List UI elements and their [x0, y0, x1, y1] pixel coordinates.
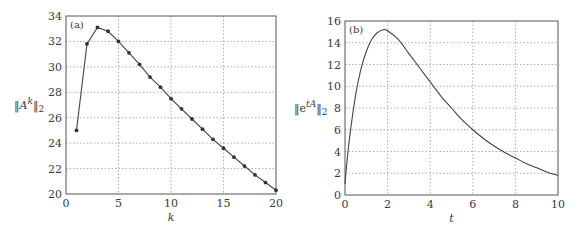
y-tick-label: 8 — [334, 102, 341, 115]
data-point-marker — [148, 75, 152, 79]
chart-panel-a: 051015202022242628303234k‖Ak‖2(a) — [14, 10, 283, 224]
data-point-marker — [274, 188, 278, 192]
data-point-marker — [264, 181, 268, 185]
y-axis-label: ‖etA‖2 — [294, 99, 327, 117]
data-point-marker — [138, 62, 142, 66]
y-tick-label: 6 — [334, 124, 341, 137]
x-tick-label: 10 — [551, 198, 565, 211]
x-tick-label: 4 — [427, 198, 434, 211]
data-point-marker — [85, 42, 89, 46]
x-tick-label: 8 — [512, 198, 519, 211]
y-tick-label: 30 — [48, 61, 62, 74]
y-tick-label: 24 — [48, 137, 62, 150]
y-tick-label: 32 — [48, 35, 62, 48]
data-point-marker — [180, 107, 184, 111]
data-point-marker — [190, 117, 194, 121]
y-tick-label: 34 — [48, 10, 62, 23]
data-point-marker — [169, 97, 173, 101]
x-tick-label: 6 — [469, 198, 476, 211]
data-point-marker — [201, 127, 205, 131]
x-tick-label: 2 — [384, 198, 391, 211]
y-tick-label: 14 — [327, 37, 341, 50]
data-point-marker — [106, 29, 110, 33]
x-tick-label: 0 — [342, 198, 349, 211]
chart-panel-b: 02468100246810121416t‖etA‖2(b) — [294, 15, 565, 225]
figure: 051015202022242628303234k‖Ak‖2(a) 024681… — [0, 0, 579, 228]
y-tick-label: 10 — [327, 80, 341, 93]
data-point-marker — [243, 164, 247, 168]
x-tick-label: 0 — [63, 197, 70, 210]
y-tick-label: 0 — [334, 189, 341, 202]
x-tick-label: 15 — [217, 197, 231, 210]
y-tick-label: 28 — [48, 86, 62, 99]
panel-label: (b) — [349, 24, 363, 35]
y-tick-label: 26 — [48, 112, 62, 125]
data-point-marker — [75, 129, 79, 133]
data-point-marker — [222, 146, 226, 150]
x-tick-label: 10 — [164, 197, 178, 210]
y-tick-label: 22 — [48, 163, 62, 176]
y-tick-label: 4 — [334, 146, 341, 159]
x-tick-label: 20 — [269, 197, 283, 210]
x-axis-label: t — [449, 212, 454, 225]
y-tick-label: 20 — [48, 188, 62, 201]
y-tick-label: 2 — [334, 167, 341, 180]
data-point-marker — [117, 40, 121, 44]
x-tick-label: 5 — [115, 197, 122, 210]
data-point-marker — [127, 51, 131, 55]
data-point-marker — [232, 155, 236, 159]
y-axis-label: ‖Ak‖2 — [14, 96, 44, 114]
y-tick-label: 12 — [327, 59, 341, 72]
x-axis-label: k — [168, 211, 175, 224]
data-point-marker — [159, 85, 163, 89]
y-tick-label: 16 — [327, 15, 341, 28]
data-point-marker — [96, 26, 100, 30]
data-series-curve — [345, 29, 558, 184]
data-point-marker — [211, 137, 215, 141]
panel-label: (a) — [70, 19, 84, 30]
data-point-marker — [253, 173, 257, 177]
